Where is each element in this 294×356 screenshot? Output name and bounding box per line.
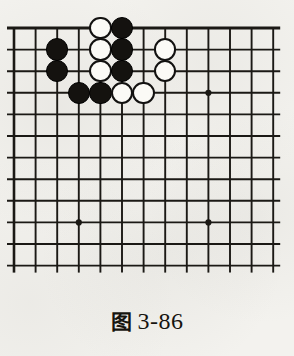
white-stone bbox=[89, 17, 111, 39]
white-stone bbox=[89, 60, 111, 82]
black-stone bbox=[68, 82, 90, 104]
figure-caption: 图 3-86 bbox=[0, 305, 294, 335]
black-stone bbox=[46, 60, 68, 82]
caption-number: 3-86 bbox=[138, 308, 184, 335]
figure-page: 图 3-86 bbox=[0, 0, 294, 356]
black-stone bbox=[111, 17, 133, 39]
white-stone bbox=[154, 38, 176, 60]
black-stone bbox=[89, 82, 111, 104]
white-stone bbox=[132, 82, 154, 104]
white-stone bbox=[111, 82, 133, 104]
go-board-diagram bbox=[0, 0, 294, 292]
black-stone bbox=[111, 38, 133, 60]
black-stone bbox=[46, 38, 68, 60]
caption-label-cn: 图 bbox=[111, 305, 132, 335]
black-stone bbox=[111, 60, 133, 82]
go-stone-layer bbox=[0, 0, 294, 292]
white-stone bbox=[154, 60, 176, 82]
white-stone bbox=[89, 38, 111, 60]
